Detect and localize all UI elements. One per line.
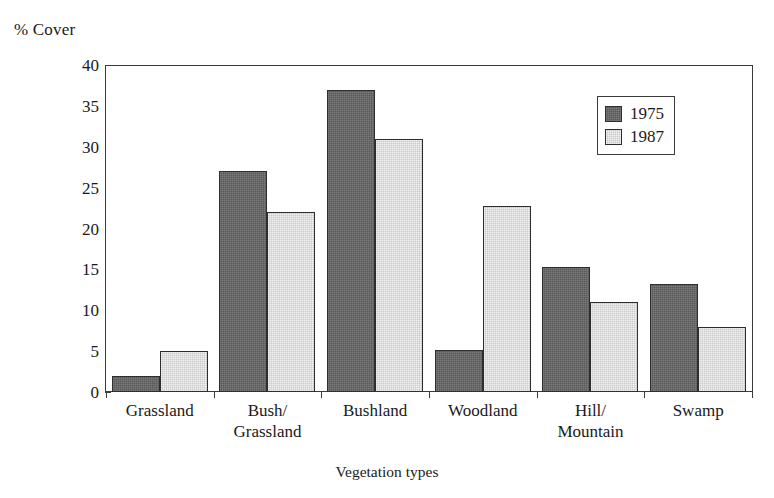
bar-1987 <box>590 302 638 392</box>
legend-row: 1975 <box>605 102 664 125</box>
y-axis-tick-label: 40 <box>53 57 99 74</box>
y-axis-tick-label: 35 <box>53 97 99 114</box>
bar-1975 <box>219 171 267 392</box>
y-axis-tick-labels: 0510152025303540 <box>46 0 99 498</box>
x-axis-category-label: Bushland <box>321 400 429 421</box>
legend-row: 1987 <box>605 125 664 148</box>
bar-1987 <box>483 206 531 392</box>
y-axis-tick-label: 25 <box>53 179 99 196</box>
bar-1975 <box>542 267 590 392</box>
bar-1975 <box>327 90 375 392</box>
y-axis-tick-label: 15 <box>53 261 99 278</box>
x-axis-category-label: Bush/ Grassland <box>214 400 322 442</box>
bar-1987 <box>267 212 315 392</box>
bar-group <box>429 66 537 392</box>
bar-1975 <box>112 376 160 392</box>
x-axis-tick-mark <box>429 392 430 398</box>
chart-legend: 19751987 <box>597 96 675 155</box>
bar-group <box>214 66 322 392</box>
x-axis-tick-mark <box>214 392 215 398</box>
x-axis-category-label: Woodland <box>429 400 537 421</box>
y-axis-tick-label: 5 <box>53 343 99 360</box>
x-axis-category-label: Hill/ Mountain <box>537 400 645 442</box>
x-axis-tick-mark <box>644 392 645 398</box>
y-axis-tick-label: 10 <box>53 302 99 319</box>
bar-group <box>321 66 429 392</box>
y-axis-tick-label: 20 <box>53 220 99 237</box>
x-axis-tick-mark <box>106 392 107 398</box>
bar-1987 <box>375 139 423 392</box>
x-axis-tick-mark <box>752 392 753 398</box>
bar-1987 <box>698 327 746 392</box>
y-axis-tick-label: 0 <box>53 384 99 401</box>
x-axis-category-label: Grassland <box>106 400 214 421</box>
x-axis-tick-mark <box>537 392 538 398</box>
x-axis-category-label: Swamp <box>644 400 752 421</box>
bar-1987 <box>160 351 208 392</box>
light-gray-swatch <box>605 129 622 145</box>
x-axis-title: Vegetation types <box>0 463 774 481</box>
bar-group <box>106 66 214 392</box>
bar-chart: % Cover 0510152025303540 GrasslandBush/ … <box>0 0 774 498</box>
dark-gray-swatch <box>605 106 622 122</box>
legend-label: 1987 <box>630 128 664 145</box>
legend-label: 1975 <box>630 105 664 122</box>
y-axis-tick-label: 30 <box>53 138 99 155</box>
bar-1975 <box>650 284 698 392</box>
x-axis-tick-mark <box>321 392 322 398</box>
bar-1975 <box>435 350 483 392</box>
